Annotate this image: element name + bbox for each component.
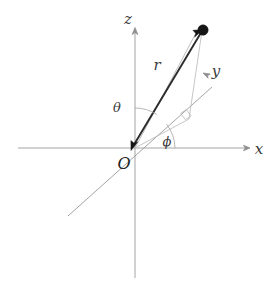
vertical-drop-line [189, 31, 202, 119]
y-axis-line [68, 87, 212, 216]
origin-label: O [117, 154, 130, 173]
radius-vector-line [134, 34, 201, 146]
phi-label: ϕ [163, 134, 172, 149]
z-axis-label: z [123, 10, 132, 28]
y-axis-label: y [211, 62, 221, 80]
radius-arrowhead-origin-icon [131, 141, 138, 151]
x-axis-label: x [255, 140, 264, 158]
y-axis-arrowhead-icon [203, 73, 210, 78]
spherical-coordinates-figure: z x y r θ ϕ O [0, 0, 280, 285]
radius-label: r [153, 56, 161, 74]
coordinate-diagram-canvas: z x y r θ ϕ O [0, 0, 280, 285]
theta-label: θ [113, 100, 121, 115]
point-p-marker [198, 25, 208, 35]
